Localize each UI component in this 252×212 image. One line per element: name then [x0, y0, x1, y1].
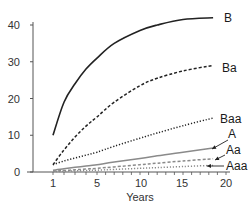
line-chart: 01020304015101520 BBaBaaAAaAaa Years — [0, 0, 252, 212]
y-tick-label: 0 — [14, 166, 20, 178]
y-tick-label: 10 — [8, 129, 20, 141]
series-label-ba: Ba — [222, 61, 237, 75]
axes: 01020304015101520 — [8, 19, 232, 189]
x-axis-title: Years — [126, 191, 154, 203]
arrowhead-icon — [207, 164, 211, 168]
series-line-baa — [53, 118, 213, 165]
series-lines — [53, 18, 213, 172]
x-tick-label: 5 — [94, 177, 100, 189]
x-tick-label: 1 — [50, 177, 56, 189]
series-labels: BBaBaaAAaAaa — [207, 11, 248, 173]
series-line-aa — [53, 159, 213, 172]
x-tick-label: 10 — [135, 177, 147, 189]
series-label-a: A — [228, 127, 236, 141]
series-line-a — [53, 148, 213, 170]
series-label-aaa: Aaa — [226, 159, 248, 173]
series-line-b — [53, 18, 213, 136]
y-tick-label: 40 — [8, 19, 20, 31]
x-tick-label: 20 — [220, 177, 232, 189]
series-label-b: B — [224, 11, 232, 25]
y-tick-label: 20 — [8, 93, 20, 105]
series-label-baa: Baa — [220, 112, 242, 126]
series-label-aa: Aa — [226, 143, 241, 157]
y-tick-label: 30 — [8, 56, 20, 68]
x-tick-label: 15 — [176, 177, 188, 189]
